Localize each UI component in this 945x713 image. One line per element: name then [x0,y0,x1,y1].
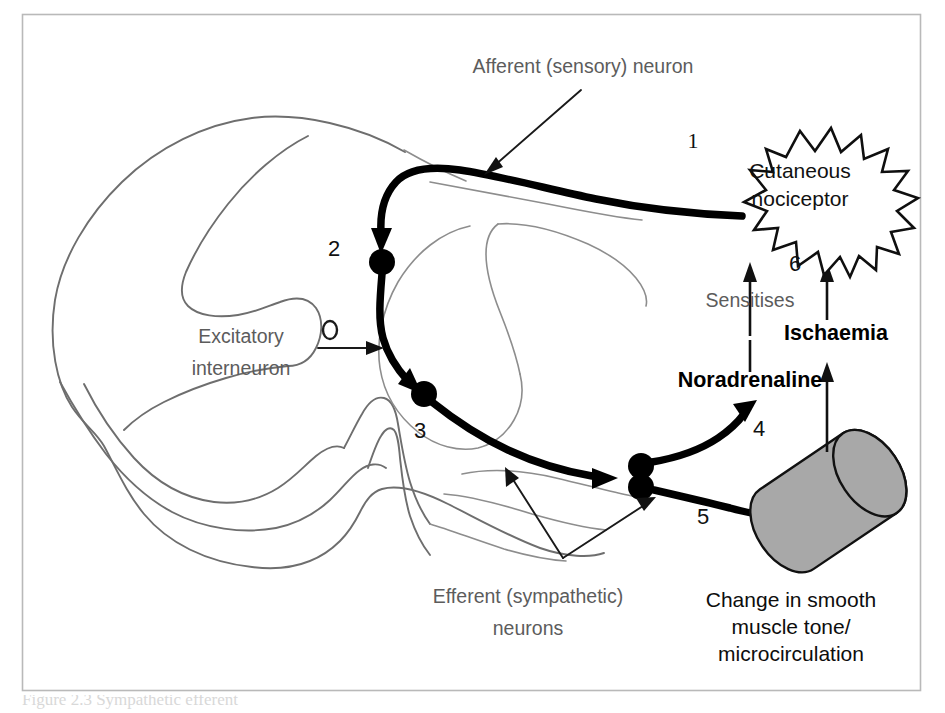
step-number-4: 4 [753,416,765,441]
smooth-muscle-label-line2: muscle tone/ [731,615,850,638]
nociceptor-label-line1: Cutaneous [749,159,851,182]
figure-container: Cutaneous nociceptor Afferent (sensory) … [0,0,945,713]
step-number-2: 2 [328,236,340,261]
excitatory-interneuron-label-line2: interneuron [192,357,291,379]
efferent-pathway-to-ganglion [432,402,654,500]
ganglion-node-lower [628,474,654,500]
step-number-3: 3 [414,418,426,443]
step-number-1: 1 [688,128,699,153]
blood-vessel-cylinder [735,417,921,586]
sensitises-arrowhead [743,262,757,282]
noradrenaline-label: Noradrenaline [678,368,823,392]
sensitises-label: Sensitises [706,289,795,311]
figure-caption: Figure 2.3 Sympathetic efferent [22,695,492,709]
excitatory-interneuron-label-line1: Excitatory [198,325,284,347]
efferent-neurons-label-line1: Efferent (sympathetic) [433,585,623,607]
smooth-muscle-label-line1: Change in smooth [706,588,876,611]
sensitises-arrow-group [743,262,757,372]
efferent-arrowhead [592,468,618,489]
interneuron-soma-icon [323,321,337,339]
afferent-neuron-label: Afferent (sensory) neuron [473,55,694,77]
nociceptor-label-line2: nociceptor [752,187,849,210]
interneuron-label-leader [318,341,384,355]
afferent-label-leader [484,90,581,175]
reflex-arc-diagram: Cutaneous nociceptor Afferent (sensory) … [0,0,945,713]
ischaemia-label: Ischaemia [784,321,889,345]
step-number-6: 6 [789,251,801,276]
efferent-neurons-label-line2: neurons [493,617,564,639]
figure-caption-strip: Figure 2.3 Sympathetic efferent [22,695,492,713]
spinal-cord-outline [53,117,647,569]
step-number-5: 5 [697,504,709,529]
interneuron-pathway [380,274,437,407]
noradrenaline-branch-4 [652,400,757,462]
smooth-muscle-label-line3: microcirculation [718,642,864,665]
afferent-neuron-pathway [369,168,742,275]
